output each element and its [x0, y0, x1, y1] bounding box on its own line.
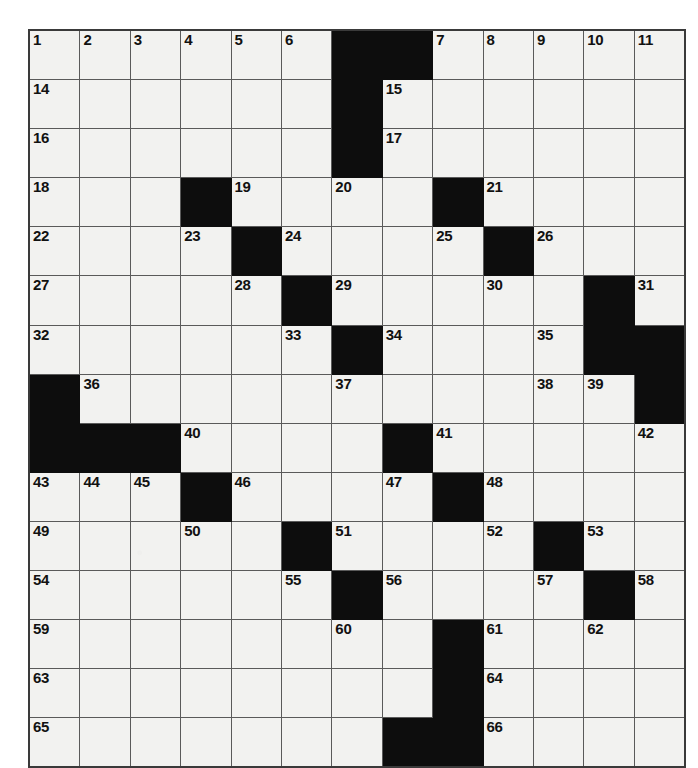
crossword-cell[interactable]: [130, 571, 180, 620]
crossword-cell[interactable]: 63: [29, 669, 80, 718]
crossword-cell[interactable]: 52: [483, 521, 533, 570]
crossword-cell[interactable]: 54: [29, 571, 80, 620]
crossword-cell[interactable]: [483, 325, 533, 374]
crossword-cell[interactable]: 23: [181, 227, 231, 276]
crossword-cell[interactable]: [382, 227, 432, 276]
crossword-cell[interactable]: 17: [382, 129, 432, 178]
crossword-cell[interactable]: 16: [29, 129, 80, 178]
crossword-cell[interactable]: 43: [29, 472, 80, 521]
crossword-cell[interactable]: 33: [281, 325, 331, 374]
crossword-cell[interactable]: [130, 718, 180, 768]
crossword-cell[interactable]: [130, 129, 180, 178]
crossword-cell[interactable]: [130, 620, 180, 669]
crossword-cell[interactable]: 26: [533, 227, 583, 276]
crossword-cell[interactable]: [433, 80, 483, 129]
crossword-cell[interactable]: [130, 669, 180, 718]
crossword-cell[interactable]: 15: [382, 80, 432, 129]
crossword-cell[interactable]: [181, 129, 231, 178]
crossword-cell[interactable]: [433, 521, 483, 570]
crossword-cell[interactable]: 14: [29, 80, 80, 129]
crossword-cell[interactable]: [433, 325, 483, 374]
crossword-cell[interactable]: [231, 423, 281, 472]
crossword-cell[interactable]: 40: [181, 423, 231, 472]
crossword-cell[interactable]: [332, 423, 382, 472]
crossword-cell[interactable]: 47: [382, 472, 432, 521]
crossword-cell[interactable]: [584, 472, 634, 521]
crossword-cell[interactable]: [281, 423, 331, 472]
crossword-cell[interactable]: [130, 374, 180, 423]
crossword-cell[interactable]: [382, 620, 432, 669]
crossword-cell[interactable]: 64: [483, 669, 533, 718]
crossword-cell[interactable]: 53: [584, 521, 634, 570]
crossword-cell[interactable]: 50: [181, 521, 231, 570]
crossword-cell[interactable]: [634, 472, 685, 521]
crossword-cell[interactable]: [181, 718, 231, 768]
crossword-cell[interactable]: 11: [634, 30, 685, 80]
crossword-cell[interactable]: 45: [130, 472, 180, 521]
crossword-cell[interactable]: 65: [29, 718, 80, 768]
crossword-cell[interactable]: [181, 620, 231, 669]
crossword-cell[interactable]: [533, 178, 583, 227]
crossword-cell[interactable]: [130, 521, 180, 570]
crossword-cell[interactable]: [332, 227, 382, 276]
crossword-cell[interactable]: [80, 718, 130, 768]
crossword-cell[interactable]: [533, 80, 583, 129]
crossword-cell[interactable]: [584, 423, 634, 472]
crossword-cell[interactable]: [80, 80, 130, 129]
crossword-cell[interactable]: [231, 718, 281, 768]
crossword-cell[interactable]: [634, 521, 685, 570]
crossword-cell[interactable]: [634, 129, 685, 178]
crossword-cell[interactable]: [634, 620, 685, 669]
crossword-cell[interactable]: [533, 129, 583, 178]
crossword-cell[interactable]: [80, 325, 130, 374]
crossword-cell[interactable]: [433, 571, 483, 620]
crossword-cell[interactable]: 9: [533, 30, 583, 80]
crossword-cell[interactable]: [584, 718, 634, 768]
crossword-cell[interactable]: [281, 620, 331, 669]
crossword-cell[interactable]: 10: [584, 30, 634, 80]
crossword-cell[interactable]: [281, 129, 331, 178]
crossword-cell[interactable]: 32: [29, 325, 80, 374]
crossword-cell[interactable]: 19: [231, 178, 281, 227]
crossword-cell[interactable]: [80, 571, 130, 620]
crossword-cell[interactable]: 34: [382, 325, 432, 374]
crossword-cell[interactable]: [382, 374, 432, 423]
crossword-cell[interactable]: 59: [29, 620, 80, 669]
crossword-cell[interactable]: 38: [533, 374, 583, 423]
crossword-cell[interactable]: [382, 521, 432, 570]
crossword-cell[interactable]: [231, 669, 281, 718]
crossword-cell[interactable]: [231, 325, 281, 374]
crossword-cell[interactable]: [231, 80, 281, 129]
crossword-cell[interactable]: [533, 718, 583, 768]
crossword-cell[interactable]: 56: [382, 571, 432, 620]
crossword-cell[interactable]: [281, 669, 331, 718]
crossword-cell[interactable]: [181, 325, 231, 374]
crossword-cell[interactable]: 39: [584, 374, 634, 423]
crossword-cell[interactable]: 51: [332, 521, 382, 570]
crossword-cell[interactable]: [483, 374, 533, 423]
crossword-grid[interactable]: 1234567891011141516171819202122232425262…: [28, 29, 686, 768]
crossword-cell[interactable]: [80, 227, 130, 276]
crossword-cell[interactable]: 5: [231, 30, 281, 80]
crossword-cell[interactable]: [281, 718, 331, 768]
crossword-cell[interactable]: 57: [533, 571, 583, 620]
crossword-cell[interactable]: [483, 571, 533, 620]
crossword-cell[interactable]: [130, 80, 180, 129]
crossword-cell[interactable]: 37: [332, 374, 382, 423]
crossword-cell[interactable]: 22: [29, 227, 80, 276]
crossword-cell[interactable]: [281, 80, 331, 129]
crossword-cell[interactable]: [181, 276, 231, 325]
crossword-cell[interactable]: [382, 178, 432, 227]
crossword-cell[interactable]: 21: [483, 178, 533, 227]
crossword-cell[interactable]: [231, 620, 281, 669]
crossword-cell[interactable]: [332, 718, 382, 768]
crossword-cell[interactable]: 44: [80, 472, 130, 521]
crossword-cell[interactable]: 1: [29, 30, 80, 80]
crossword-cell[interactable]: 58: [634, 571, 685, 620]
crossword-cell[interactable]: [231, 521, 281, 570]
crossword-cell[interactable]: 41: [433, 423, 483, 472]
crossword-cell[interactable]: [533, 620, 583, 669]
crossword-cell[interactable]: [382, 669, 432, 718]
crossword-cell[interactable]: [332, 669, 382, 718]
crossword-cell[interactable]: 49: [29, 521, 80, 570]
